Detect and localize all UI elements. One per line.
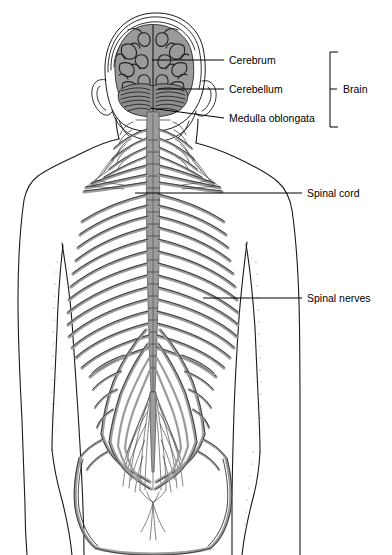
label-medulla-oblongata: Medulla oblongata: [229, 112, 315, 124]
label-cerebrum: Cerebrum: [229, 54, 276, 66]
label-group: Cerebrum Cerebellum Medulla oblongata Br…: [229, 54, 371, 304]
brain-bracket: [330, 52, 338, 127]
label-spinal-nerves: Spinal nerves: [307, 292, 371, 304]
label-brain: Brain: [343, 83, 368, 95]
nervous-system-figure: Cerebrum Cerebellum Medulla oblongata Br…: [0, 0, 392, 555]
label-spinal-cord: Spinal cord: [307, 187, 360, 199]
label-cerebellum: Cerebellum: [229, 83, 283, 95]
